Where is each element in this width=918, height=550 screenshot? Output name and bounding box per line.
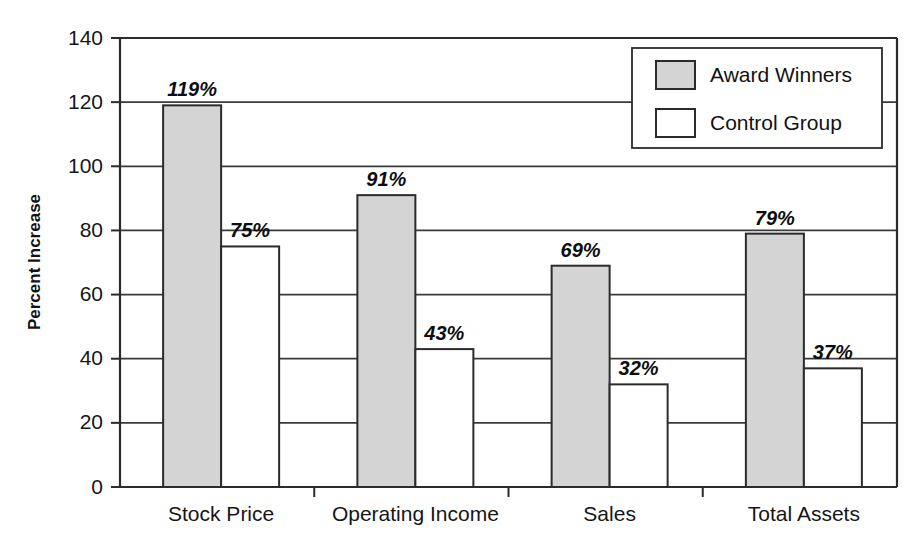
bar [552, 266, 610, 487]
legend-label: Award Winners [710, 63, 852, 86]
bar [357, 195, 415, 487]
y-tick-label: 60 [80, 282, 103, 305]
x-category-label: Stock Price [168, 502, 274, 525]
y-tick-label: 20 [80, 410, 103, 433]
bar-value-label: 91% [366, 168, 406, 190]
y-tick-label: 80 [80, 218, 103, 241]
y-tick-label: 120 [68, 90, 103, 113]
legend-swatch [656, 109, 695, 137]
y-tick-label: 100 [68, 154, 103, 177]
bar [221, 246, 279, 487]
chart-canvas: 020406080100120140 119%75%91%43%69%32%79… [0, 0, 918, 550]
bar [804, 368, 862, 487]
bar [163, 105, 221, 487]
bar-value-label: 37% [813, 341, 853, 363]
x-category-label: Operating Income [332, 502, 499, 525]
bar-value-label: 32% [619, 357, 659, 379]
bar-value-label: 69% [561, 239, 601, 261]
x-category-label: Total Assets [748, 502, 860, 525]
bar-value-label: 119% [167, 78, 217, 100]
y-tick-label: 0 [91, 475, 103, 498]
x-category-label: Sales [583, 502, 636, 525]
bar [746, 234, 804, 487]
chart-legend: Award WinnersControl Group [632, 48, 882, 148]
legend-swatch [656, 61, 695, 89]
bar-value-label: 75% [230, 219, 270, 241]
y-axis-title: Percent Increase [25, 194, 44, 330]
legend-label: Control Group [710, 111, 842, 134]
y-tick-label: 140 [68, 26, 103, 49]
bar-chart-figure: 020406080100120140 119%75%91%43%69%32%79… [0, 0, 918, 550]
y-tick-label: 40 [80, 346, 103, 369]
bar-value-label: 43% [423, 322, 464, 344]
bar-value-label: 79% [755, 207, 795, 229]
bar [610, 384, 668, 487]
bar [415, 349, 473, 487]
